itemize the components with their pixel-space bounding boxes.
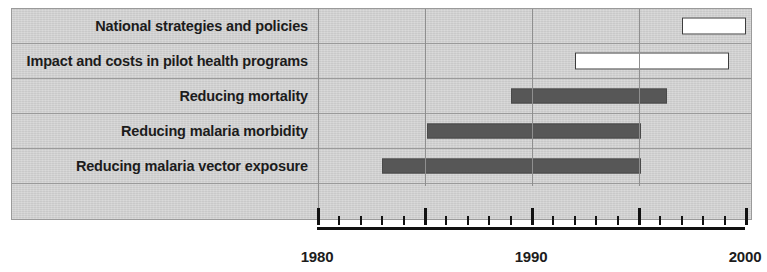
minor-tick-1993 xyxy=(595,216,597,225)
row-label-3: Reducing mortality xyxy=(12,79,317,113)
minor-tick-1988 xyxy=(488,216,490,225)
chart-row: Reducing malaria vector exposure xyxy=(12,149,751,184)
x-tick-label-1990: 1990 xyxy=(515,248,548,265)
chart-panel: National strategies and policiesImpact a… xyxy=(11,8,752,220)
major-tick-2000 xyxy=(745,208,748,225)
minor-tick-1981 xyxy=(338,216,340,225)
row-label-2: Impact and costs in pilot health program… xyxy=(12,44,317,78)
minor-tick-1984 xyxy=(403,216,405,225)
major-tick-1985 xyxy=(424,208,427,225)
vertical-gridline-1990 xyxy=(532,9,533,186)
vertical-gridline-1985 xyxy=(425,9,426,186)
chart-row: Reducing malaria morbidity xyxy=(12,114,751,149)
row-label-4: Reducing malaria morbidity xyxy=(12,114,317,148)
chart-row: Reducing mortality xyxy=(12,79,751,114)
minor-tick-1998 xyxy=(702,216,704,225)
gantt-bar xyxy=(575,53,729,70)
minor-tick-1986 xyxy=(445,216,447,225)
minor-tick-1991 xyxy=(552,216,554,225)
major-tick-1995 xyxy=(638,208,641,225)
minor-tick-1997 xyxy=(681,216,683,225)
gantt-chart: National strategies and policiesImpact a… xyxy=(0,0,767,272)
minor-tick-1987 xyxy=(467,216,469,225)
gantt-bar xyxy=(682,18,746,35)
row-plot-area xyxy=(318,149,751,183)
row-plot-area xyxy=(318,9,751,43)
chart-row: Impact and costs in pilot health program… xyxy=(12,44,751,79)
minor-tick-1983 xyxy=(381,216,383,225)
x-tick-label-1980: 1980 xyxy=(301,248,334,265)
row-plot-area xyxy=(318,79,751,113)
vertical-gridline-1995 xyxy=(639,9,640,186)
major-tick-1990 xyxy=(531,208,534,225)
gantt-bar xyxy=(511,89,667,104)
minor-tick-1996 xyxy=(659,216,661,225)
row-label-5: Reducing malaria vector exposure xyxy=(12,149,317,183)
gantt-bar xyxy=(427,124,641,139)
minor-tick-1999 xyxy=(724,216,726,225)
row-label-1: National strategies and policies xyxy=(12,9,317,43)
minor-tick-1982 xyxy=(360,216,362,225)
chart-row: National strategies and policies xyxy=(12,9,751,44)
minor-tick-1994 xyxy=(617,216,619,225)
x-tick-label-2000: 2000 xyxy=(729,248,762,265)
vertical-gridline-1980 xyxy=(318,9,319,221)
x-axis-line xyxy=(317,227,745,230)
minor-tick-1992 xyxy=(574,216,576,225)
major-tick-1980 xyxy=(317,208,320,225)
row-plot-area xyxy=(318,44,751,78)
row-plot-area xyxy=(318,114,751,148)
gantt-bar xyxy=(382,159,641,174)
x-axis: 198019902000 xyxy=(317,211,745,212)
minor-tick-1989 xyxy=(510,216,512,225)
